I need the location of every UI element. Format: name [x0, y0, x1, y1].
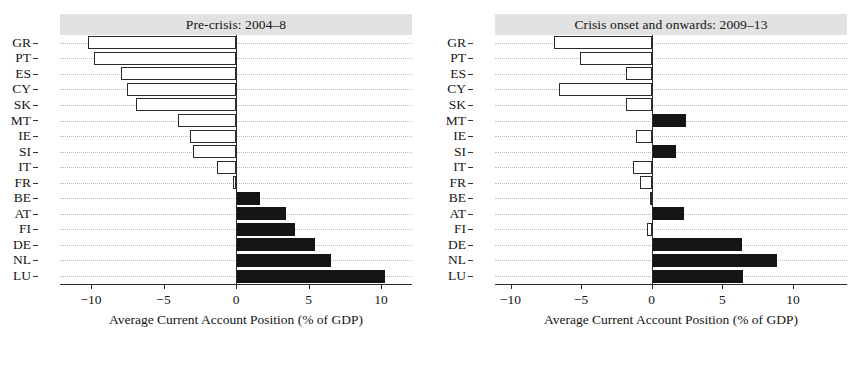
y-tick-label-si: SI — [19, 145, 38, 159]
bar-es — [626, 67, 651, 80]
figure-two-panel-bar-charts: Pre-crisis: 2004–8GRPTESCYSKMTIESIITFRBE… — [0, 0, 867, 366]
y-tick-label-mt: MT — [446, 114, 473, 128]
x-axis-title: Average Current Account Position (% of G… — [109, 312, 363, 328]
x-tick-mark — [581, 285, 582, 289]
chart-title-strip: Pre-crisis: 2004–8 — [60, 14, 412, 35]
x-tick-mark — [91, 285, 92, 289]
y-tick-label-be: BE — [14, 191, 38, 205]
bar-sk — [626, 98, 651, 111]
y-tick-text: LU — [13, 268, 31, 283]
y-tick-label-it: IT — [18, 160, 38, 174]
x-tick-mark — [309, 285, 310, 289]
bar-sk — [136, 98, 236, 111]
y-tick-mark — [468, 89, 473, 90]
y-tick-label-pt: PT — [15, 51, 38, 65]
bar-mt — [178, 114, 236, 127]
y-tick-text: GR — [12, 35, 31, 50]
y-tick-mark — [33, 152, 38, 153]
y-tick-text: SK — [14, 97, 31, 112]
y-tick-text: SI — [19, 144, 31, 159]
chart-title: Pre-crisis: 2004–8 — [186, 17, 286, 33]
y-tick-mark — [33, 167, 38, 168]
y-tick-text: MT — [11, 113, 31, 128]
y-tick-mark — [468, 152, 473, 153]
bar-at — [236, 207, 286, 220]
y-tick-mark — [468, 74, 473, 75]
x-tick-label: 5 — [719, 292, 726, 308]
x-tick-label: 0 — [648, 292, 655, 308]
y-tick-label-sk: SK — [449, 98, 473, 112]
gridline — [495, 167, 847, 168]
bar-be — [236, 192, 260, 205]
bar-ie — [190, 130, 236, 143]
chart-title-strip: Crisis onset and onwards: 2009–13 — [495, 14, 847, 35]
x-axis-title: Average Current Account Position (% of G… — [544, 312, 798, 328]
y-tick-mark — [468, 214, 473, 215]
bar-si — [652, 145, 676, 158]
bar-nl — [236, 254, 331, 267]
y-tick-text: LU — [448, 268, 466, 283]
y-axis-category-labels: GRPTESCYSKMTIESIITFRBEATFIDENLLU — [433, 0, 495, 366]
y-tick-label-fi: FI — [454, 222, 473, 236]
bar-si — [193, 145, 237, 158]
x-tick-mark — [164, 285, 165, 289]
y-tick-text: FR — [449, 175, 466, 190]
gridline — [495, 198, 847, 199]
y-tick-text: SK — [449, 97, 466, 112]
y-tick-mark — [468, 167, 473, 168]
chart-panel-crisis-onset: Crisis onset and onwards: 2009–13GRPTESC… — [433, 0, 866, 366]
y-tick-mark — [468, 58, 473, 59]
y-tick-label-pt: PT — [450, 51, 473, 65]
y-tick-text: GR — [447, 35, 466, 50]
y-tick-text: ES — [15, 66, 31, 81]
bar-cy — [127, 83, 236, 96]
y-tick-label-fi: FI — [19, 222, 38, 236]
x-tick-mark — [722, 285, 723, 289]
y-tick-mark — [33, 245, 38, 246]
y-tick-mark — [33, 276, 38, 277]
y-tick-label-de: DE — [13, 238, 38, 252]
y-tick-text: IE — [453, 128, 466, 143]
zero-reference-line — [236, 35, 237, 284]
gridline — [495, 229, 847, 230]
y-tick-label-mt: MT — [11, 114, 38, 128]
bar-at — [652, 207, 684, 220]
bar-de — [652, 238, 742, 251]
y-tick-mark — [468, 183, 473, 184]
bar-ie — [636, 130, 652, 143]
x-tick-label: −10 — [80, 292, 101, 308]
bar-lu — [652, 270, 744, 283]
bar-gr — [554, 36, 651, 49]
y-tick-mark — [468, 276, 473, 277]
y-tick-label-lu: LU — [13, 269, 38, 283]
y-tick-mark — [468, 105, 473, 106]
x-tick-mark — [652, 285, 653, 289]
y-tick-label-sk: SK — [14, 98, 38, 112]
chart-title: Crisis onset and onwards: 2009–13 — [574, 17, 767, 33]
y-tick-mark — [33, 89, 38, 90]
y-tick-text: ES — [450, 66, 466, 81]
x-tick-label: 0 — [233, 292, 240, 308]
y-tick-label-lu: LU — [448, 269, 473, 283]
y-tick-mark — [33, 198, 38, 199]
bar-de — [236, 238, 315, 251]
y-tick-mark — [468, 229, 473, 230]
x-tick-mark — [381, 285, 382, 289]
bar-es — [121, 67, 236, 80]
gridline — [495, 105, 847, 106]
y-tick-text: FI — [454, 221, 466, 236]
x-tick-label: 10 — [374, 292, 388, 308]
y-tick-mark — [468, 260, 473, 261]
y-tick-label-nl: NL — [448, 253, 473, 267]
gridline — [495, 74, 847, 75]
y-tick-mark — [33, 229, 38, 230]
y-tick-text: NL — [13, 252, 31, 267]
y-tick-label-ie: IE — [18, 129, 38, 143]
gridline — [495, 136, 847, 137]
y-tick-text: SI — [454, 144, 466, 159]
bar-it — [217, 161, 236, 174]
y-tick-mark — [33, 214, 38, 215]
y-tick-mark — [468, 136, 473, 137]
x-tick-label: −10 — [500, 292, 521, 308]
y-tick-mark — [33, 260, 38, 261]
